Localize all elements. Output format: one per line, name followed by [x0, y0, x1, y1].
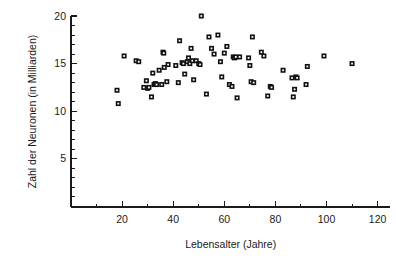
x-axis-tick-labels: 20406080100120 [116, 213, 386, 225]
data-point-marker [306, 65, 309, 68]
data-point-marker [117, 102, 120, 105]
data-point-marker [295, 76, 298, 79]
data-point-marker [151, 71, 154, 74]
data-point-marker [212, 52, 215, 55]
y-tick-label: 10 [54, 105, 66, 117]
y-tick-label: 20 [54, 10, 66, 22]
data-point-marker [142, 86, 145, 89]
y-axis-title: Zahl der Neuronen (in Milliarden) [26, 35, 38, 189]
y-tick-label: 5 [60, 152, 66, 164]
data-point-marker [225, 45, 228, 48]
x-tick-label: 100 [318, 213, 336, 225]
data-point-marker [122, 54, 125, 57]
data-point-marker [293, 88, 296, 91]
x-tick-label: 20 [116, 213, 128, 225]
axes-group [71, 16, 390, 207]
data-point-marker [157, 69, 160, 72]
data-point-marker [155, 83, 158, 86]
data-point-marker [200, 14, 203, 17]
data-point-marker [137, 60, 140, 63]
scatter-plot-figure: 5101520 20406080100120 Lebensalter (Jahr… [0, 0, 396, 266]
data-point-marker [235, 96, 238, 99]
data-point-marker [220, 75, 223, 78]
data-point-marker [304, 83, 307, 86]
data-point-marker [177, 81, 180, 84]
data-point-marker [192, 78, 195, 81]
data-point-markers [115, 14, 353, 105]
data-point-marker [191, 59, 194, 62]
data-point-marker [207, 35, 210, 38]
data-point-marker [205, 92, 208, 95]
y-tick-label: 15 [54, 57, 66, 69]
data-point-marker [281, 69, 284, 72]
data-point-marker [262, 54, 265, 57]
data-point-marker [248, 64, 251, 67]
data-point-marker [187, 56, 190, 59]
data-point-marker [247, 56, 250, 59]
data-point-marker [234, 55, 237, 58]
x-tick-label: 80 [270, 213, 282, 225]
data-point-marker [216, 33, 219, 36]
data-point-marker [147, 86, 150, 89]
data-point-marker [182, 62, 185, 65]
data-point-marker [174, 64, 177, 67]
y-axis-tick-labels: 5101520 [54, 10, 66, 165]
data-point-marker [219, 60, 222, 63]
data-point-marker [270, 86, 273, 89]
x-axis-title: Lebensalter (Jahre) [185, 238, 276, 250]
data-point-marker [178, 39, 181, 42]
data-point-marker [290, 76, 293, 79]
data-point-marker [223, 51, 226, 54]
data-point-marker [162, 51, 165, 54]
data-point-marker [210, 47, 213, 50]
data-point-marker [115, 89, 118, 92]
plot-canvas: 5101520 20406080100120 Lebensalter (Jahr… [0, 0, 396, 266]
data-point-marker [260, 50, 263, 53]
data-point-marker [165, 80, 168, 83]
y-axis-ticks [71, 16, 77, 206]
data-point-marker [160, 83, 163, 86]
data-point-marker [251, 35, 254, 38]
x-tick-label: 40 [167, 213, 179, 225]
data-point-marker [322, 54, 325, 57]
data-point-marker [150, 95, 153, 98]
data-point-marker [238, 55, 241, 58]
data-point-marker [350, 62, 353, 65]
x-axis-ticks [71, 201, 378, 207]
data-point-marker [198, 63, 201, 66]
data-point-marker [266, 94, 269, 97]
data-point-marker [163, 66, 166, 69]
data-point-marker [252, 81, 255, 84]
data-point-marker [183, 72, 186, 75]
data-point-marker [145, 79, 148, 82]
data-point-marker [292, 95, 295, 98]
data-point-marker [189, 47, 192, 50]
data-point-marker [166, 63, 169, 66]
data-point-marker [230, 85, 233, 88]
x-tick-label: 120 [369, 213, 387, 225]
x-tick-label: 60 [218, 213, 230, 225]
